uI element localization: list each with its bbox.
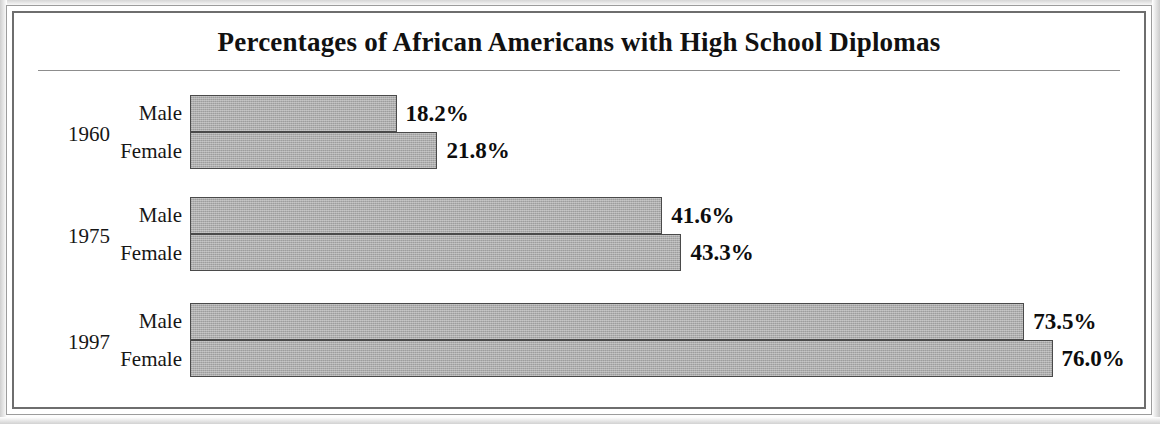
series-label-1997-female: Female <box>114 342 182 378</box>
bar-group-1975: 1975 Male Female 41.6% 43.3% <box>14 197 1144 275</box>
bar-1997-male[interactable] <box>190 303 1024 340</box>
bar-value-1997-female: 76.0% <box>1053 346 1125 372</box>
title-divider <box>38 70 1120 71</box>
bar-1960-male[interactable] <box>190 95 397 132</box>
series-label-1975-female: Female <box>114 236 182 272</box>
bar-1975-male[interactable] <box>190 197 662 234</box>
series-label-1960-male: Male <box>114 96 182 132</box>
bar-1997-female[interactable] <box>190 340 1053 377</box>
plot-area: 1960 Male Female 18.2% 21.8% 1975 Male F… <box>14 85 1144 395</box>
bar-value-1975-male: 41.6% <box>662 203 734 229</box>
series-label-1960-female: Female <box>114 134 182 170</box>
bar-chart: Percentages of African Americans with Hi… <box>14 13 1144 407</box>
bar-group-1997: 1997 Male Female 73.5% 76.0% <box>14 303 1144 381</box>
bar-1975-female[interactable] <box>190 234 681 271</box>
year-label-1975: 1975 <box>14 224 110 249</box>
year-label-1960: 1960 <box>14 122 110 147</box>
bar-value-1960-female: 21.8% <box>437 138 509 164</box>
bar-1960-female[interactable] <box>190 132 437 169</box>
bar-value-1960-male: 18.2% <box>397 101 469 127</box>
figure-page: Percentages of African Americans with Hi… <box>0 0 1160 424</box>
scan-edge-bottom <box>0 417 1160 424</box>
bar-group-1960: 1960 Male Female 18.2% 21.8% <box>14 95 1144 173</box>
bar-value-1997-male: 73.5% <box>1024 309 1096 335</box>
series-label-1975-male: Male <box>114 198 182 234</box>
chart-title: Percentages of African Americans with Hi… <box>14 27 1144 58</box>
bar-value-1975-female: 43.3% <box>681 240 753 266</box>
scan-edge-right <box>1152 0 1160 424</box>
series-label-1997-male: Male <box>114 304 182 340</box>
year-label-1997: 1997 <box>14 330 110 355</box>
